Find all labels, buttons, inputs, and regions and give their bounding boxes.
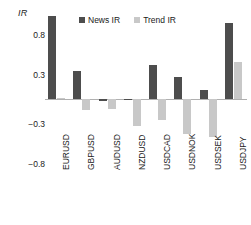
bar-news-ir: [48, 16, 56, 99]
bar-news-ir: [200, 90, 208, 100]
bar-news-ir: [225, 23, 233, 99]
y-tick-label: 0.8: [5, 30, 45, 40]
bar-news-ir: [73, 71, 81, 99]
x-tick-label: USDJPY: [238, 136, 248, 170]
bar-trend-ir: [57, 98, 65, 100]
x-tick-label: USDCAD: [162, 134, 172, 170]
bar-trend-ir: [133, 99, 141, 126]
chart-container: IR News IR Trend IR 0.80.3−0.3−0.8 EURUS…: [0, 0, 251, 225]
y-axis-title: IR: [18, 8, 27, 18]
y-tick-label: −0.3: [5, 119, 45, 129]
bar-trend-ir: [108, 99, 116, 109]
bar-trend-ir: [82, 99, 90, 110]
bar-news-ir: [149, 65, 157, 99]
x-tick-label: GBPUSD: [86, 134, 96, 170]
x-tick-label: NZDUSD: [137, 135, 147, 170]
bar-trend-ir: [234, 62, 242, 99]
x-tick-label: AUDUSD: [112, 134, 122, 170]
bar-trend-ir: [209, 99, 217, 136]
bar-news-ir: [174, 77, 182, 99]
x-tick-label: EURUSD: [61, 134, 71, 170]
bar-news-ir: [124, 99, 132, 100]
x-tick-label: USDNOK: [187, 134, 197, 170]
bar-trend-ir: [183, 99, 191, 134]
y-tick-label: −0.8: [5, 159, 45, 169]
y-tick-label: 0.3: [5, 70, 45, 80]
bar-news-ir: [99, 99, 107, 101]
x-tick-label: USDSEK: [213, 135, 223, 170]
bar-trend-ir: [158, 99, 166, 119]
